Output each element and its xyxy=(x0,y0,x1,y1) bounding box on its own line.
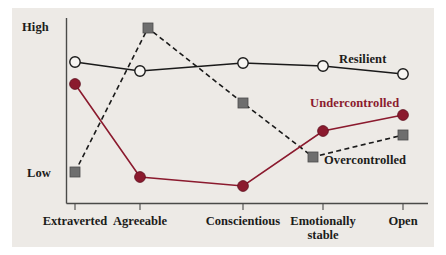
marker-undercontrolled-3 xyxy=(318,126,329,137)
marker-resilient-2 xyxy=(238,58,248,68)
x-label-open: Open xyxy=(388,215,417,229)
marker-undercontrolled-2 xyxy=(238,181,249,192)
marker-resilient-0 xyxy=(70,57,80,67)
marker-overcontrolled-4 xyxy=(398,130,408,140)
marker-resilient-3 xyxy=(318,61,328,71)
chart-figure: High Low Extraverted Agreeable Conscient… xyxy=(0,0,446,255)
series-label-overcontrolled: Overcontrolled xyxy=(324,153,406,168)
marker-overcontrolled-3 xyxy=(308,152,318,162)
marker-resilient-4 xyxy=(398,69,408,79)
series-label-undercontrolled: Undercontrolled xyxy=(310,96,399,111)
marker-undercontrolled-1 xyxy=(135,172,146,183)
x-label-emotionally-stable: Emotionally stable xyxy=(280,215,366,242)
x-label-extraverted: Extraverted xyxy=(43,215,108,229)
marker-resilient-1 xyxy=(135,66,145,76)
y-axis-low-label: Low xyxy=(27,166,51,181)
x-label-conscientious: Conscientious xyxy=(206,215,280,229)
marker-undercontrolled-4 xyxy=(398,110,409,121)
series-label-resilient: Resilient xyxy=(339,52,386,67)
x-label-agreeable: Agreeable xyxy=(113,215,167,229)
marker-undercontrolled-0 xyxy=(70,79,81,90)
y-axis-high-label: High xyxy=(22,20,49,35)
marker-overcontrolled-2 xyxy=(238,98,248,108)
marker-overcontrolled-1 xyxy=(143,23,153,33)
marker-overcontrolled-0 xyxy=(70,167,80,177)
